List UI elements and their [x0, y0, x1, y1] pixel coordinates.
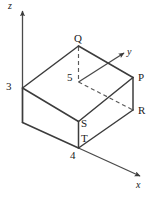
- measure-label-4: 4: [70, 150, 76, 161]
- edge-bottom-left-front: [23, 123, 79, 149]
- measure-label-5: 5: [67, 72, 73, 83]
- edge-top-left-front: [23, 88, 79, 122]
- axis-label-z: z: [8, 1, 12, 11]
- measure-label-3: 3: [6, 81, 12, 92]
- axis-x-line: [79, 148, 141, 176]
- dashed-edge-center-r: [79, 82, 134, 110]
- label-Q: Q: [74, 33, 82, 44]
- label-R: R: [138, 105, 145, 116]
- label-T: T: [81, 133, 88, 144]
- box-vertical-edges: [23, 78, 134, 149]
- label-S: S: [81, 118, 87, 129]
- box-diagram-svg: [0, 0, 160, 199]
- edge-top-right-back: [79, 46, 134, 78]
- label-P: P: [138, 72, 144, 83]
- figure-canvas: z y x Q P R S T 3 5 4: [0, 0, 160, 199]
- axis-label-y: y: [127, 47, 131, 57]
- hidden-edges: [79, 47, 134, 110]
- axis-label-x: x: [136, 180, 140, 190]
